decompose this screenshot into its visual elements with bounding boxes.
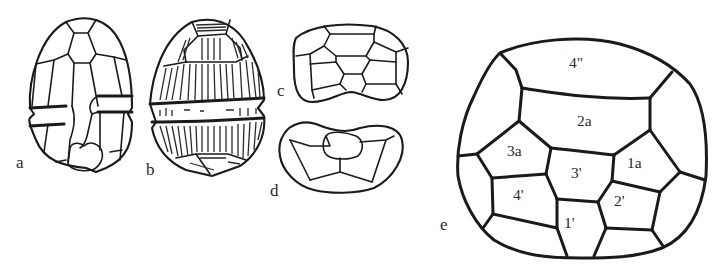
plate-label-2a: 2a bbox=[577, 112, 592, 129]
plate-label-1a: 1a bbox=[627, 154, 642, 171]
panel-label-d: d bbox=[270, 181, 279, 200]
panel-label-a: a bbox=[16, 153, 24, 172]
panel-e-drawing bbox=[458, 39, 707, 258]
plate-label-3prime: 3' bbox=[571, 164, 582, 181]
panel-c-drawing bbox=[294, 25, 409, 103]
panel-label-e: e bbox=[440, 215, 448, 234]
striation-lines-lower bbox=[160, 122, 262, 170]
plate-label-1prime: 1' bbox=[564, 214, 575, 231]
dinoflagellate-plate-figure: a b bbox=[0, 0, 724, 270]
plate-label-3a: 3a bbox=[507, 142, 522, 159]
panel-label-c: c bbox=[277, 81, 285, 100]
panel-b-drawing bbox=[150, 20, 264, 176]
panel-a-drawing bbox=[29, 18, 132, 172]
panel-d-drawing bbox=[279, 122, 403, 192]
plate-label-2prime: 2' bbox=[614, 192, 625, 209]
plate-label-4pp: 4" bbox=[569, 54, 583, 71]
panel-label-b: b bbox=[146, 160, 155, 179]
plate-label-4prime: 4' bbox=[513, 186, 524, 203]
